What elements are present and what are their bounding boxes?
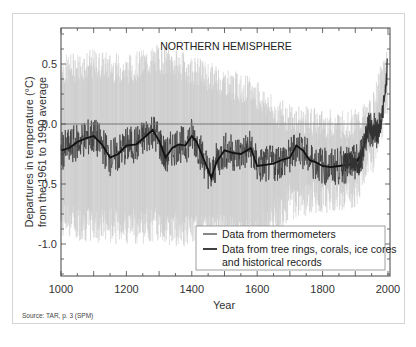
chart-title: NORTHERN HEMISPHERE bbox=[160, 40, 292, 52]
x-tick-label: 1600 bbox=[245, 283, 269, 295]
x-tick-label: 1400 bbox=[180, 283, 204, 295]
y-axis-title-line-1: Departures in temperature (°C) bbox=[23, 76, 35, 227]
legend-label-proxy-line-1: Data from tree rings, corals, ice cores bbox=[222, 243, 396, 255]
legend-label-thermometers: Data from thermometers bbox=[222, 228, 336, 240]
legend: Data from thermometers Data from tree ri… bbox=[196, 226, 396, 270]
x-tick-label: 2000 bbox=[376, 283, 400, 295]
y-axis-title-line-2: from the 1961 to 1990 average bbox=[36, 77, 48, 227]
y-tick-label: -1.0 bbox=[38, 238, 57, 250]
x-tick-label: 1000 bbox=[49, 283, 73, 295]
x-tick-label: 1800 bbox=[310, 283, 334, 295]
y-axis-title: Departures in temperature (°C) from the … bbox=[23, 76, 48, 227]
x-axis-title: Year bbox=[213, 299, 236, 311]
temperature-chart: 1000120014001600180020000.50.0-0.5-1.0 N… bbox=[0, 0, 416, 347]
source-note: Source: TAR, p. 3 (SPM) bbox=[22, 312, 93, 319]
y-tick-label: 0.5 bbox=[42, 58, 57, 70]
legend-label-proxy-line-2: and historical records bbox=[222, 256, 322, 268]
x-tick-label: 1200 bbox=[114, 283, 138, 295]
